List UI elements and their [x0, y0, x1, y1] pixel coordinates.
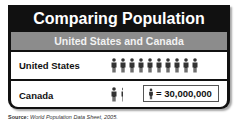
source-label: Source:: [8, 114, 28, 120]
person-icon: [110, 58, 118, 73]
chart-frame: Comparing Population United States and C…: [8, 5, 230, 109]
row-label-canada: Canada: [19, 90, 53, 101]
canada-person-icons: [110, 87, 123, 102]
person-icon: [146, 58, 154, 73]
person-icon: [173, 58, 181, 73]
person-icon: [148, 88, 154, 100]
person-icon: [155, 58, 163, 73]
person-icon: [182, 58, 190, 73]
person-icon: [137, 58, 145, 73]
row-united-states: United States: [11, 52, 227, 79]
partial-person-icon: [120, 87, 123, 102]
legend-key: = 30,000,000: [143, 85, 219, 102]
person-icon: [164, 58, 172, 73]
person-icon: [191, 58, 199, 73]
chart-title: Comparing Population: [8, 5, 230, 31]
source-note: Source: World Population Data Sheet, 200…: [8, 114, 118, 120]
source-text: World Population Data Sheet, 2005.: [30, 114, 118, 120]
legend-unit-value: = 30,000,000: [156, 88, 212, 99]
row-label-united-states: United States: [19, 60, 80, 71]
chart-subtitle: United States and Canada: [11, 32, 227, 50]
person-icon: [119, 58, 127, 73]
person-icon: [110, 87, 118, 102]
row-canada: Canada = 30,000,000: [11, 81, 227, 107]
united-states-person-icons: [110, 58, 199, 73]
person-icon: [128, 58, 136, 73]
